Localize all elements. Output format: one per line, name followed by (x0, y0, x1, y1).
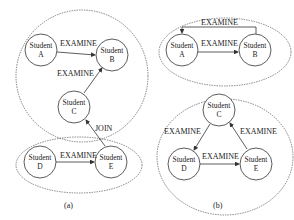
node-label: Student (98, 46, 126, 55)
node-id: B (241, 50, 269, 59)
node-label: Student (241, 41, 269, 50)
node-id: D (26, 162, 54, 171)
node-id: C (60, 107, 88, 116)
node-a: StudentA (27, 41, 55, 59)
node-id: A (168, 50, 196, 59)
caption-a: (a) (64, 202, 73, 210)
edge-label-b-a: EXAMINE (201, 19, 238, 27)
node-d: StudentD (26, 153, 54, 171)
node-label: Student (170, 155, 198, 164)
node-d: StudentD (170, 155, 198, 173)
node-id: A (27, 50, 55, 59)
node-c: StudentC (205, 101, 233, 119)
node-id: D (170, 164, 198, 173)
node-e: StudentE (97, 153, 125, 171)
edge-label-c-b: EXAMINE (57, 70, 94, 78)
diagram-canvas (0, 0, 294, 220)
node-label: Student (27, 41, 55, 50)
node-label: Student (97, 153, 125, 162)
edge-label-a-b: EXAMINE (60, 40, 97, 48)
edge-a-b (57, 52, 95, 55)
node-c: StudentC (60, 98, 88, 116)
node-id: E (97, 162, 125, 171)
node-b: StudentB (98, 46, 126, 64)
node-label: Student (168, 41, 196, 50)
node-id: C (205, 110, 233, 119)
node-label: Student (60, 98, 88, 107)
edge-label-d-e: EXAMINE (202, 153, 239, 161)
node-label: Student (205, 101, 233, 110)
edge-b-a (182, 27, 256, 34)
node-label: Student (26, 153, 54, 162)
node-b: StudentB (241, 41, 269, 59)
node-e: StudentE (242, 155, 270, 173)
node-id: E (242, 164, 270, 173)
edge-label-e-c: EXAMINE (240, 128, 277, 136)
node-id: B (98, 55, 126, 64)
node-label: Student (242, 155, 270, 164)
edge-label-a-b: EXAMINE (201, 40, 238, 48)
edge-label-d-e: EXAMINE (60, 152, 97, 160)
node-a: StudentA (168, 41, 196, 59)
edge-label-c-d: EXAMINE (164, 128, 201, 136)
edge-label-e-c: JOIN (95, 125, 112, 133)
caption-b: (b) (213, 202, 222, 210)
